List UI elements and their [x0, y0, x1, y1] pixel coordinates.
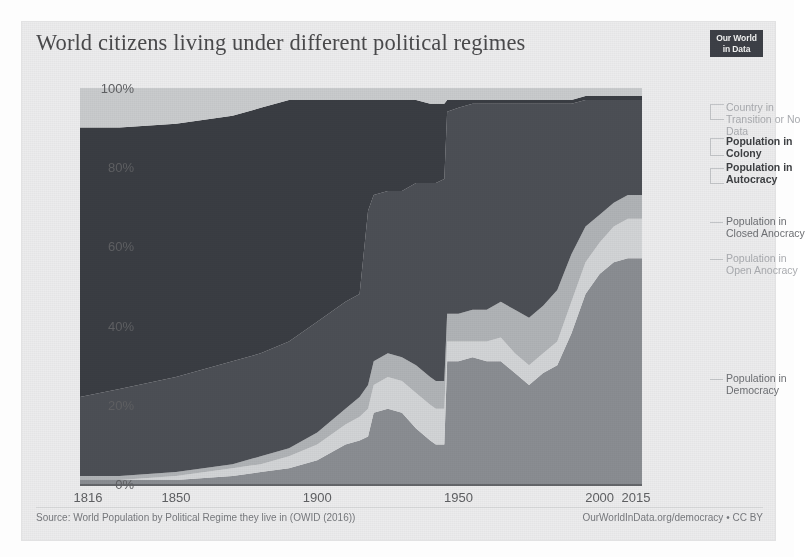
owid-logo[interactable]: Our World in Data: [710, 30, 763, 57]
y-axis-tick: 40%: [88, 318, 134, 333]
legend-connector: [710, 168, 724, 184]
owid-logo-line1: Our World: [710, 33, 763, 44]
legend-connector: [710, 104, 724, 120]
page-title: World citizens living under different po…: [36, 30, 525, 56]
y-axis-tick: 60%: [88, 239, 134, 254]
plot-wrap: 0%20%40%60%80%100% 181618501900195020002…: [80, 88, 700, 484]
x-axis-tick: 2015: [622, 490, 651, 505]
legend-item[interactable]: Population in Closed Anocracy: [726, 216, 809, 240]
x-axis-tick: 1850: [162, 490, 191, 505]
y-axis-tick: 20%: [88, 397, 134, 412]
stacked-area-chart[interactable]: [80, 88, 642, 484]
legend-item[interactable]: Population in Colony: [726, 136, 809, 160]
x-axis-tick: 1900: [303, 490, 332, 505]
x-axis-tick: 1950: [444, 490, 473, 505]
y-axis-tick: 80%: [88, 160, 134, 175]
legend-item[interactable]: Country in Transition or No Data: [726, 102, 809, 137]
x-axis-tick: 2000: [585, 490, 614, 505]
owid-logo-line2: in Data: [710, 44, 763, 55]
chart-legend: Country in Transition or No DataPopulati…: [708, 88, 808, 484]
legend-connector: [710, 379, 723, 380]
legend-item[interactable]: Population in Open Anocracy: [726, 253, 809, 277]
footer: Source: World Population by Political Re…: [36, 512, 763, 526]
footer-divider: [36, 507, 763, 508]
chart-card: World citizens living under different po…: [22, 22, 775, 540]
source-note: Source: World Population by Political Re…: [36, 512, 355, 523]
legend-item[interactable]: Population in Autocracy: [726, 162, 809, 186]
legend-connector: [710, 138, 724, 156]
legend-connector: [710, 259, 723, 260]
legend-item[interactable]: Population in Democracy: [726, 373, 809, 397]
x-axis-tick: 1816: [74, 490, 103, 505]
area-svg: [80, 88, 642, 484]
x-axis-line: [80, 484, 642, 486]
license-note[interactable]: OurWorldInData.org/democracy • CC BY: [582, 512, 763, 523]
legend-connector: [710, 222, 723, 223]
y-axis-tick: 100%: [88, 81, 134, 96]
